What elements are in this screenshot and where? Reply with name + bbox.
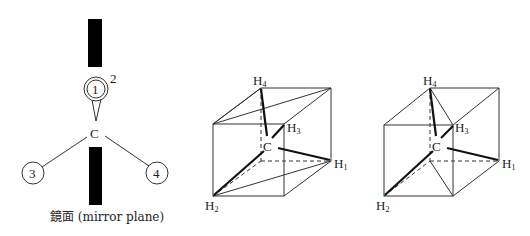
cube-right: C H4 H3 H1 H2 <box>376 73 515 214</box>
tetra-back-bl-front-br <box>430 161 453 196</box>
cube-edge-tl <box>384 88 430 125</box>
mirror-plane-caption: 鏡面 (mirror plane) <box>50 209 164 224</box>
tetra-diag-bottom <box>213 161 331 196</box>
figure-canvas: 1 2 C 3 4 鏡面 (mirror plane) <box>0 0 530 236</box>
bond-c-h3 <box>441 126 453 138</box>
bond-c-h3 <box>272 125 284 138</box>
bond-c-4 <box>105 136 149 166</box>
bond-c-3 <box>42 137 87 167</box>
cube-right-h3: H3 <box>455 120 468 136</box>
cube-left: C H4 H3 H1 H2 <box>205 73 347 214</box>
wedge-line-left <box>92 100 96 121</box>
cube-left-carbon: C <box>263 139 272 154</box>
substituent-1-label: 1 <box>92 82 99 97</box>
cube-edge-br <box>284 161 331 196</box>
mirror-plane-diagram: 1 2 C 3 4 鏡面 (mirror plane) <box>22 19 168 224</box>
cube-left-h4: H4 <box>253 73 266 89</box>
cube-edge-tr <box>284 88 331 124</box>
cube-edge-br <box>453 161 499 196</box>
bond-c-h1 <box>278 148 330 160</box>
cube-right-h2: H2 <box>376 198 389 214</box>
mirror-bar-bottom <box>89 147 102 205</box>
mirror-bar-top <box>88 19 102 67</box>
center-carbon-label: C <box>90 126 99 141</box>
tetra-diag-top <box>213 88 331 124</box>
cube-left-h2: H2 <box>205 198 218 214</box>
tetra-edge-h2-h4 <box>213 88 261 124</box>
cube-right-carbon: C <box>432 139 441 154</box>
cube-left-h3: H3 <box>287 120 300 136</box>
substituent-2-label: 2 <box>110 71 117 86</box>
bond-c-h2 <box>385 151 433 195</box>
wedge-line-right <box>96 99 101 121</box>
cube-left-h1: H1 <box>334 156 347 172</box>
cube-right-h1: H1 <box>502 156 515 172</box>
bond-c-h1 <box>447 148 498 160</box>
substituent-4-label: 4 <box>153 166 160 181</box>
cube-right-h4: H4 <box>423 73 436 89</box>
substituent-3-label: 3 <box>29 166 36 181</box>
bond-c-h4 <box>261 89 267 136</box>
